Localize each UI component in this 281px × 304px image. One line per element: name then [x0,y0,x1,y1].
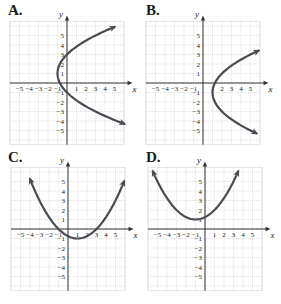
graph-b-plot: xy−5−4−3−2−11234554321−1−2−3−4−5 [137,0,281,150]
x-tick-label: 5 [113,85,117,93]
x-tick-label: −4 [163,231,171,239]
x-axis-label: x [132,84,137,94]
y-tick-label: −1 [195,235,203,243]
y-tick-label: 4 [61,42,65,50]
graph-a: A. xy−5−4−3−2−11234554321−1−2−3−4−5 [0,0,140,150]
x-tick-label: 3 [230,85,234,93]
x-tick-label: −3 [36,231,44,239]
x-tick-label: 5 [114,231,118,239]
y-tick-label: −5 [193,127,201,135]
x-tick-label: 5 [249,85,253,93]
x-tick-label: −4 [26,231,34,239]
x-tick-label: −5 [154,231,162,239]
x-tick-label: −2 [182,231,190,239]
y-tick-label: −2 [193,99,201,107]
x-tick-label: 4 [241,231,245,239]
graph-c: C. xy−5−4−3−2−11234554321−1−2−3−4−5 [0,148,140,304]
y-tick-label: −5 [57,127,65,135]
y-tick-label: 4 [62,188,66,196]
x-axis-label: x [268,84,273,94]
x-tick-label: 3 [94,85,98,93]
y-axis-arrow-icon [203,162,207,167]
y-tick-label: 5 [199,178,203,186]
graph-d-plot: xy−5−4−3−2−11234554321−1−2−3−4−5 [137,148,281,304]
x-tick-label: 3 [232,231,236,239]
y-tick-label: −5 [58,273,66,281]
y-axis-label: y [59,155,64,165]
y-tick-label: 3 [62,197,66,205]
x-tick-label: −3 [171,85,179,93]
y-tick-label: −4 [195,264,203,272]
y-tick-label: 5 [62,178,66,186]
y-axis-arrow-icon [201,16,205,21]
y-tick-label: −4 [57,118,65,126]
y-tick-label: 1 [197,70,201,78]
y-tick-label: −2 [58,245,66,253]
x-tick-label: 2 [220,85,224,93]
x-tick-label: 5 [251,231,255,239]
y-axis-label: y [58,9,63,19]
graph-b: B. xy−5−4−3−2−11234554321−1−2−3−4−5 [137,0,281,150]
x-tick-label: −2 [45,231,53,239]
x-tick-label: 1 [75,85,79,93]
x-tick-label: 4 [239,85,243,93]
y-tick-label: 1 [62,216,66,224]
x-tick-label: −4 [25,85,33,93]
y-axis-label: y [196,155,201,165]
y-tick-label: −3 [58,254,66,262]
y-tick-label: −3 [195,254,203,262]
x-tick-label: −2 [180,85,188,93]
graph-c-plot: xy−5−4−3−2−11234554321−1−2−3−4−5 [0,148,140,304]
y-tick-label: 2 [199,207,203,215]
x-tick-label: 3 [95,231,99,239]
x-tick-label: 1 [213,231,217,239]
y-tick-label: 2 [62,207,66,215]
y-tick-label: −4 [193,118,201,126]
x-tick-label: 2 [84,85,88,93]
x-tick-label: 2 [222,231,226,239]
x-tick-label: −5 [16,85,24,93]
x-tick-label: 4 [104,231,108,239]
y-tick-label: −1 [58,235,66,243]
y-tick-label: 1 [61,70,65,78]
x-tick-label: −3 [173,231,181,239]
y-tick-label: 4 [197,42,201,50]
y-tick-label: 5 [61,32,65,40]
x-axis-label: x [270,230,275,240]
y-tick-label: −4 [58,264,66,272]
x-tick-label: 4 [103,85,107,93]
y-tick-label: −3 [57,108,65,116]
y-tick-label: 3 [199,197,203,205]
y-tick-label: 5 [197,32,201,40]
x-tick-label: −5 [152,85,160,93]
y-axis-arrow-icon [65,16,69,21]
y-tick-label: −2 [57,99,65,107]
y-tick-label: −1 [193,89,201,97]
y-tick-label: 3 [197,51,201,59]
y-tick-label: 4 [199,188,203,196]
y-tick-label: 2 [197,61,201,69]
x-tick-label: −4 [161,85,169,93]
y-tick-label: −3 [193,108,201,116]
y-tick-label: −1 [57,89,65,97]
y-axis-arrow-icon [66,162,70,167]
x-tick-label: −5 [17,231,25,239]
x-tick-label: −3 [35,85,43,93]
x-tick-label: −2 [44,85,52,93]
y-axis-label: y [194,9,199,19]
y-tick-label: −5 [195,273,203,281]
parabola-curve [30,179,124,238]
graph-d: D. xy−5−4−3−2−11234554321−1−2−3−4−5 [137,148,281,304]
graph-a-plot: xy−5−4−3−2−11234554321−1−2−3−4−5 [0,0,140,150]
y-tick-label: −2 [195,245,203,253]
